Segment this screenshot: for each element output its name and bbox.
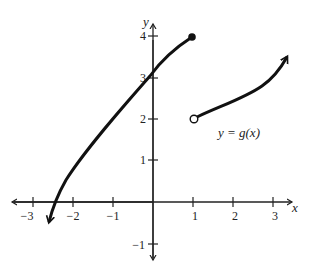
x-tick-label: 2 xyxy=(232,209,238,223)
left-branch-curve xyxy=(49,37,192,222)
x-axis-label: x xyxy=(291,200,298,215)
right-branch-curve xyxy=(197,57,287,117)
function-label: y = g(x) xyxy=(216,125,260,140)
x-tick-label: 3 xyxy=(272,209,278,223)
y-tick-label: 2 xyxy=(140,112,146,126)
y-axis-label: y xyxy=(141,14,149,29)
x-tick-label: −3 xyxy=(21,209,34,223)
graph-of-g: −3 −2 −1 1 2 3 −1 1 2 3 4 x y y = g(x) xyxy=(0,0,314,274)
closed-dot xyxy=(188,33,196,41)
x-tick-label: −2 xyxy=(67,209,80,223)
open-dot xyxy=(190,115,198,123)
x-tick-label: 1 xyxy=(192,209,198,223)
y-tick-label: 1 xyxy=(140,153,146,167)
y-tick-label: 4 xyxy=(140,29,146,43)
x-tick-label: −1 xyxy=(107,209,120,223)
y-tick-label: −1 xyxy=(132,238,145,252)
